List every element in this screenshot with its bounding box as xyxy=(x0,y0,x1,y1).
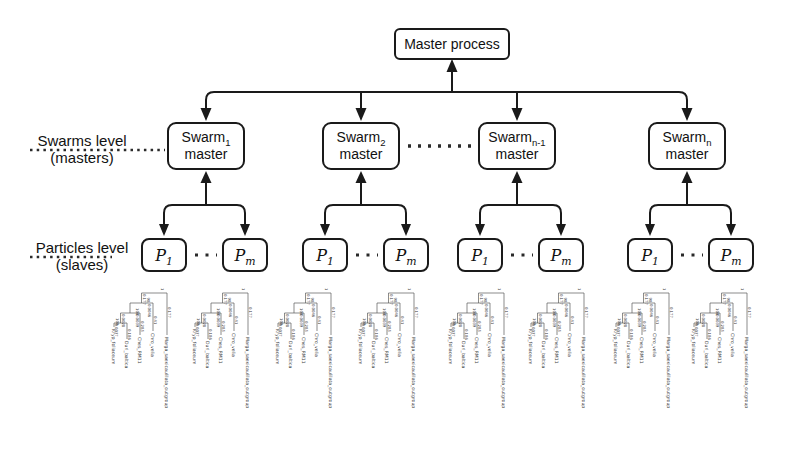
master-bus-line xyxy=(206,92,687,110)
swarm1-particle-1-node: P1 xyxy=(141,238,187,272)
branch-length-label: 0.0039 xyxy=(552,314,557,328)
branch-length-label: 0.186 xyxy=(707,329,712,340)
tree-rotated-wrapper: Marga_saexicaulilata_outgroup0.177Chro_v… xyxy=(445,287,510,459)
swarm2-particle-m-node: Pm xyxy=(383,238,429,272)
taxon-label: Duri_baltica xyxy=(370,341,376,369)
branch-length-label: 0.0046 xyxy=(564,304,569,318)
swarms-level-line2: (masters) xyxy=(24,149,140,166)
s4-p1-label: P1 xyxy=(641,246,659,265)
branch-length-label: 0.0039 xyxy=(382,314,387,328)
taxon-label: Chro_velia xyxy=(396,333,402,357)
branch-length-label: 0.177 xyxy=(167,307,172,318)
support-value: 98 xyxy=(726,298,731,303)
branch-length-label: 0.0037 xyxy=(195,324,200,338)
taxon-label: Chro_velia xyxy=(651,333,657,357)
taxon-label: Marga_saexicaulilata_outgroup xyxy=(665,337,671,408)
phylo-tree-2: Marga_saexicaulilata_outgroup0.177Chro_v… xyxy=(189,287,254,459)
branch-length-label: 0.285 xyxy=(720,321,725,332)
arrow-down-swarm1 xyxy=(201,108,212,121)
swarm-1-role: master xyxy=(185,146,228,164)
arrow-down-s2pm xyxy=(401,224,411,236)
branch-length-label: 0.0039 xyxy=(637,314,642,328)
branch-length-label: 0.0046 xyxy=(228,304,233,318)
tree-rotated-wrapper: Marga_saexicaulilata_outgroup0.177Chro_v… xyxy=(610,287,675,459)
swarm-2-master-node: Swarm2 master xyxy=(322,122,400,170)
branch-length-label: 0.0046 xyxy=(727,304,732,318)
arrow-up-swarm3 xyxy=(512,171,523,183)
taxon-label: Marga_saexicaulilata_outgroup xyxy=(743,337,749,408)
swarm-n-1-master-node: Swarmn-1 master xyxy=(478,122,556,170)
branch-length-label: 0.285 xyxy=(477,321,482,332)
branch-length-label: 0.186 xyxy=(208,329,213,340)
taxon-label: Duri_baltica xyxy=(123,341,129,369)
taxon-label: Ches_RM11 xyxy=(383,337,389,364)
s3-p1-label: P1 xyxy=(471,246,489,265)
arrow-down-s3pm xyxy=(556,224,566,236)
phylo-tree-svg: Marga_saexicaulilata_outgroup0.177Chro_v… xyxy=(525,287,590,459)
branch-length-label: 0.186 xyxy=(291,329,296,340)
arrow-down-swarm3 xyxy=(512,108,523,121)
swarms-level-line1: Swarms level xyxy=(24,132,140,149)
arrow-up-swarm4 xyxy=(682,171,693,183)
branch-length-label: 0.0039 xyxy=(472,314,477,328)
branch-length-label: 0.0028 xyxy=(538,314,543,328)
support-value: 1 xyxy=(241,288,246,291)
phylo-tree-5: Marga_saexicaulilata_outgroup0.177Chro_v… xyxy=(445,287,510,459)
swarm2-particle-bus xyxy=(325,182,406,226)
taxon-label: Marga_saexicaulilata_outgroup xyxy=(500,337,506,408)
tree-rotated-wrapper: Marga_saexicaulilata_outgroup0.177Chro_v… xyxy=(272,287,337,459)
branch-length-label: 0.186 xyxy=(374,329,379,340)
arrow-down-s1p1 xyxy=(159,224,169,236)
taxon-label: Marga_saexicaulilata_outgroup xyxy=(327,337,333,408)
support-value: 100 xyxy=(452,318,457,326)
branch-length-label: 0.285 xyxy=(304,321,309,332)
taxon-label: Chro_velia xyxy=(313,333,319,357)
s2-p1-label: P1 xyxy=(316,246,334,265)
branch-length-label: 0.0037 xyxy=(361,324,366,338)
taxon-label: Ches_RM11 xyxy=(638,337,644,364)
arrow-down-s2p1 xyxy=(320,224,330,236)
branch-length-label: 0.0028 xyxy=(285,314,290,328)
branch-length-label: 0.0037 xyxy=(278,324,283,338)
diagram-canvas: Master process Swarms level (masters) Pa… xyxy=(0,0,801,462)
support-value: 1 xyxy=(324,288,329,291)
branch-length-label: 0.0039 xyxy=(715,314,720,328)
branch-length-label: 0.41 xyxy=(570,316,575,325)
phylo-tree-7: Marga_saexicaulilata_outgroup0.177Chro_v… xyxy=(610,287,675,459)
s4-pm-label: Pm xyxy=(720,246,741,265)
taxon-label: Ches_RM11 xyxy=(300,337,306,364)
phylo-tree-svg: Marga_saexicaulilata_outgroup0.177Chro_v… xyxy=(189,287,254,459)
branch-length-label: 0.177 xyxy=(248,307,253,318)
branch-length-label: 0.0046 xyxy=(147,304,152,318)
branch-length-label: 0.0028 xyxy=(623,314,628,328)
branch-length-label: 0.0028 xyxy=(701,314,706,328)
swarm-1-name: Swarm1 xyxy=(182,129,231,147)
branch-length-label: 0.285 xyxy=(642,321,647,332)
branch-length-label: 0.0037 xyxy=(616,324,621,338)
branch-length-label: 0.0046 xyxy=(394,304,399,318)
s3-pm-label: Pm xyxy=(550,246,571,265)
support-value: 100 xyxy=(115,318,120,326)
support-value: 98 xyxy=(227,298,232,303)
phylo-tree-1: Marga_saexicaulilata_outgroup0.177Chro_v… xyxy=(108,287,173,459)
branch-length-label: 0.186 xyxy=(127,329,132,340)
branch-length-label: 0.177 xyxy=(669,307,674,318)
taxon-label: Ches_RM11 xyxy=(136,337,142,364)
support-value: 100 xyxy=(362,318,367,326)
branch-length-label: 0.177 xyxy=(504,307,509,318)
taxon-label: Ches_RM11 xyxy=(217,337,223,364)
support-value: 1 xyxy=(740,288,745,291)
branch-length-label: 0.0028 xyxy=(458,314,463,328)
branch-length-label: 0.41 xyxy=(153,316,158,325)
phylo-tree-3: Marga_saexicaulilata_outgroup0.177Chro_v… xyxy=(272,287,337,459)
phylo-tree-svg: Marga_saexicaulilata_outgroup0.177Chro_v… xyxy=(688,287,753,459)
support-value: 98 xyxy=(483,298,488,303)
swarm1-particle-m-node: Pm xyxy=(222,238,268,272)
arrow-down-s3p1 xyxy=(475,224,485,236)
phylo-tree-svg: Marga_saexicaulilata_outgroup0.177Chro_v… xyxy=(108,287,173,459)
arrow-down-swarm2 xyxy=(356,108,367,121)
phylo-tree-4: Marga_saexicaulilata_outgroup0.177Chro_v… xyxy=(355,287,420,459)
branch-length-label: 0.0028 xyxy=(368,314,373,328)
support-value: 100 xyxy=(695,318,700,326)
master-process-node: Master process xyxy=(394,28,510,60)
